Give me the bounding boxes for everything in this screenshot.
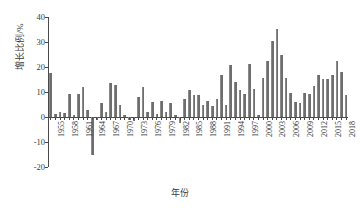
y-tick-mark: [45, 92, 48, 93]
x-tick-label: 1988: [210, 121, 218, 137]
bar: [68, 94, 71, 118]
bar: [248, 64, 251, 117]
y-tick-label: -10: [34, 138, 45, 147]
bar: [211, 106, 214, 117]
x-tick-label: 1955: [58, 121, 66, 137]
x-tick-mark: [166, 117, 167, 120]
x-tick-mark: [180, 117, 181, 120]
x-tick-label: 2003: [279, 121, 287, 137]
bar: [225, 105, 228, 118]
x-tick-mark: [235, 117, 236, 120]
bar: [197, 95, 200, 118]
x-tick-mark: [240, 117, 241, 120]
y-tick-mark: [45, 42, 48, 43]
x-tick-mark: [221, 117, 222, 120]
x-tick-mark: [272, 117, 273, 120]
x-tick-mark: [249, 117, 250, 120]
x-tick-mark: [323, 117, 324, 120]
plot-area: 403020100-10-20 195519581961196419671970…: [48, 17, 348, 167]
x-tick-mark: [304, 117, 305, 120]
x-tick-label: 2000: [266, 121, 274, 137]
bar: [340, 72, 343, 117]
y-tick-mark: [45, 17, 48, 18]
x-tick-mark: [207, 117, 208, 120]
bar: [317, 75, 320, 118]
bar: [82, 87, 85, 117]
y-tick-mark: [45, 142, 48, 143]
x-tick-mark: [147, 117, 148, 120]
x-tick-mark: [230, 117, 231, 120]
x-tick-mark: [341, 117, 342, 120]
bar: [271, 41, 274, 117]
x-tick-label: 2009: [307, 121, 315, 137]
bar: [188, 90, 191, 118]
bar: [285, 78, 288, 117]
x-tick-mark: [267, 117, 268, 120]
x-tick-mark: [96, 117, 97, 120]
bar: [326, 79, 329, 117]
bar: [202, 105, 205, 118]
bar: [234, 82, 237, 118]
x-tick-mark: [286, 117, 287, 120]
x-tick-label: 1982: [183, 121, 191, 137]
x-tick-mark: [110, 117, 111, 120]
x-tick-mark: [193, 117, 194, 120]
x-tick-mark: [106, 117, 107, 120]
x-tick-label: 2018: [349, 121, 357, 137]
x-tick-label: 1964: [99, 121, 107, 137]
bar: [313, 86, 316, 117]
bar: [114, 85, 117, 117]
bar: [86, 110, 89, 118]
x-tick-mark: [87, 117, 88, 120]
y-tick-label: 10: [37, 88, 46, 97]
bar: [49, 73, 52, 117]
bar: [206, 101, 209, 117]
x-tick-mark: [69, 117, 70, 120]
x-tick-mark: [346, 117, 347, 120]
x-tick-label: 1994: [238, 121, 246, 137]
bar: [100, 103, 103, 117]
y-tick-label: -20: [34, 163, 45, 172]
bar: [169, 103, 172, 117]
x-tick-mark: [198, 117, 199, 120]
x-tick-label: 2015: [335, 121, 343, 137]
x-tick-mark: [203, 117, 204, 120]
y-tick-label: 40: [37, 13, 46, 22]
x-tick-mark: [244, 117, 245, 120]
bar: [253, 89, 256, 117]
x-tick-mark: [189, 117, 190, 120]
y-tick-mark: [45, 67, 48, 68]
x-tick-mark: [64, 117, 65, 120]
x-tick-mark: [115, 117, 116, 120]
x-tick-mark: [258, 117, 259, 120]
bar: [262, 78, 265, 117]
x-tick-mark: [92, 117, 93, 120]
x-tick-mark: [170, 117, 171, 120]
x-tick-mark: [156, 117, 157, 120]
bar: [299, 103, 302, 117]
bar: [119, 105, 122, 117]
x-tick-mark: [120, 117, 121, 120]
bar: [216, 99, 219, 118]
bar: [77, 94, 80, 117]
x-tick-mark: [83, 117, 84, 120]
y-tick-label: 20: [37, 63, 46, 72]
x-tick-label: 2006: [293, 121, 301, 137]
bar: [308, 94, 311, 117]
x-tick-mark: [263, 117, 264, 120]
bar: [160, 101, 163, 117]
y-tick-mark: [45, 167, 48, 168]
x-tick-label: 1979: [169, 121, 177, 137]
y-tick-label: 0: [41, 113, 45, 122]
x-tick-mark: [281, 117, 282, 120]
x-tick-mark: [226, 117, 227, 120]
x-tick-mark: [50, 117, 51, 120]
x-tick-mark: [60, 117, 61, 120]
x-tick-mark: [216, 117, 217, 120]
x-tick-mark: [124, 117, 125, 120]
bar: [239, 90, 242, 118]
x-tick-label: 1970: [127, 121, 135, 137]
x-tick-mark: [295, 117, 296, 120]
x-tick-mark: [143, 117, 144, 120]
x-tick-label: 1991: [224, 121, 232, 137]
